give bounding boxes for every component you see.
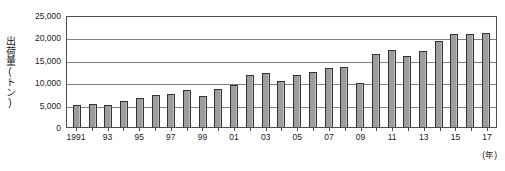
bar xyxy=(372,54,380,127)
y-axis-tick-labels: 25,00020,00015,00010,0005,0000 xyxy=(16,0,64,171)
x-tick-label: 99 xyxy=(198,132,207,142)
bar xyxy=(262,73,270,127)
x-tick-label: 01 xyxy=(229,132,238,142)
x-tick-label: 97 xyxy=(166,132,175,142)
bar-slot xyxy=(148,17,164,127)
x-axis: 199193959799010305070911131517 xyxy=(66,128,497,142)
bar-slot xyxy=(336,17,352,127)
x-tick-label-slot: 03 xyxy=(258,132,274,144)
bar xyxy=(450,34,458,127)
y-tick-label: 15,000 xyxy=(35,56,61,65)
bar-slot xyxy=(163,17,179,127)
x-tick-label-slot xyxy=(400,132,416,144)
x-tick-label-slot xyxy=(115,132,131,144)
x-tick-label-slot xyxy=(84,132,100,144)
bar xyxy=(104,105,112,127)
x-tick-label: 95 xyxy=(134,132,143,142)
bar-slot xyxy=(431,17,447,127)
x-tick-label-slot: 13 xyxy=(416,132,432,144)
x-tick-label: 1991 xyxy=(66,132,85,142)
x-tick-label-slot: 11 xyxy=(384,132,400,144)
bar xyxy=(230,85,238,127)
bar xyxy=(89,104,97,127)
x-tick-label: 03 xyxy=(261,132,270,142)
x-tick-label-slot xyxy=(432,132,448,144)
y-tick-label: 0 xyxy=(56,124,61,133)
x-tick-label-slot: 97 xyxy=(163,132,179,144)
bar-slot xyxy=(195,17,211,127)
y-tick-label: 20,000 xyxy=(35,34,61,43)
bar xyxy=(325,68,333,127)
bar-slot xyxy=(211,17,227,127)
x-tick-label-slot xyxy=(242,132,258,144)
x-tick-label-slot: 09 xyxy=(353,132,369,144)
bar-slot xyxy=(179,17,195,127)
bar-series xyxy=(67,17,496,127)
x-tick-label: 17 xyxy=(482,132,491,142)
bar-slot xyxy=(352,17,368,127)
bar-slot xyxy=(242,17,258,127)
bar xyxy=(293,75,301,127)
bar-slot xyxy=(116,17,132,127)
bar xyxy=(152,95,160,127)
bar-slot xyxy=(415,17,431,127)
bar xyxy=(214,89,222,127)
x-tick-label-slot xyxy=(179,132,195,144)
bar-slot xyxy=(274,17,290,127)
y-tick-label: 5,000 xyxy=(40,101,61,110)
bar xyxy=(136,98,144,127)
bar xyxy=(309,72,317,127)
bar xyxy=(482,33,490,127)
bar xyxy=(466,34,474,127)
bar-slot xyxy=(478,17,494,127)
x-tick-label-slot xyxy=(368,132,384,144)
x-tick-label-slot xyxy=(147,132,163,144)
bar-slot xyxy=(462,17,478,127)
x-tick-label: 11 xyxy=(388,132,397,142)
bar-slot xyxy=(384,17,400,127)
x-tick-label: 93 xyxy=(103,132,112,142)
bar xyxy=(167,94,175,127)
bar-slot xyxy=(132,17,148,127)
x-tick-label-slot xyxy=(463,132,479,144)
bar xyxy=(183,90,191,127)
plot-area xyxy=(66,16,497,128)
bar xyxy=(388,50,396,127)
x-axis-unit-label: (年) xyxy=(482,150,497,160)
x-tick-label: 07 xyxy=(324,132,333,142)
bar xyxy=(340,67,348,127)
bar-slot xyxy=(85,17,101,127)
x-axis-tick-labels: 199193959799010305070911131517 xyxy=(66,132,497,144)
bar xyxy=(73,105,81,127)
x-tick-label-slot xyxy=(305,132,321,144)
x-tick-label-slot: 17 xyxy=(479,132,495,144)
bar xyxy=(419,51,427,127)
x-tick-label-slot xyxy=(337,132,353,144)
bar xyxy=(356,83,364,127)
x-tick-label-slot: 07 xyxy=(321,132,337,144)
bar-slot xyxy=(69,17,85,127)
x-tick-label: 13 xyxy=(419,132,428,142)
bar xyxy=(277,81,285,127)
bar-slot xyxy=(399,17,415,127)
y-tick-label: 10,000 xyxy=(35,79,61,88)
x-tick-label-slot: 05 xyxy=(289,132,305,144)
x-tick-label-slot: 15 xyxy=(448,132,464,144)
bar-slot xyxy=(258,17,274,127)
bar xyxy=(435,41,443,127)
bar-slot xyxy=(447,17,463,127)
x-tick-label-slot: 93 xyxy=(100,132,116,144)
bar xyxy=(199,96,207,127)
bar-slot xyxy=(226,17,242,127)
bar-slot xyxy=(100,17,116,127)
x-tick-label: 09 xyxy=(356,132,365,142)
bar-slot xyxy=(321,17,337,127)
x-tick-label: 15 xyxy=(451,132,460,142)
bar xyxy=(403,56,411,127)
x-tick-label-slot xyxy=(274,132,290,144)
x-tick-label-slot: 99 xyxy=(195,132,211,144)
bar-slot xyxy=(368,17,384,127)
x-tick-label-slot: 01 xyxy=(226,132,242,144)
bar xyxy=(120,101,128,127)
bar xyxy=(246,75,254,127)
